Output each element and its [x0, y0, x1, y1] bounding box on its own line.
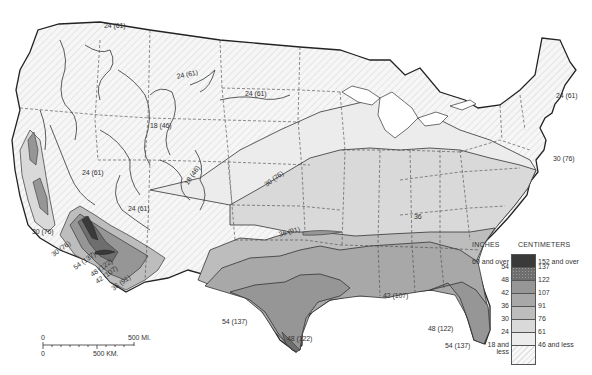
- legend-swatch: [511, 332, 536, 345]
- isoline-label: 54 (137): [445, 342, 470, 350]
- legend-divider: [511, 293, 536, 294]
- legend-inches-label: 48: [501, 276, 509, 283]
- isoline-label: 36: [414, 213, 422, 221]
- isoline-label: 48 (122): [428, 325, 453, 333]
- legend-cm-label: 107: [538, 289, 550, 296]
- legend-cm-label: 91: [538, 302, 546, 309]
- legend-swatch: [511, 280, 536, 293]
- legend-header-centimeters: CENTIMETERS: [518, 241, 570, 248]
- legend-swatch: [511, 306, 536, 319]
- legend-divider: [511, 332, 536, 333]
- scale-miles-zero: 0: [41, 334, 45, 342]
- legend-swatch: [511, 293, 536, 306]
- legend-header-inches: INCHES: [472, 241, 500, 248]
- legend-swatch: [511, 267, 536, 280]
- isoline-label: 24 (61): [245, 90, 266, 98]
- isoline-label: 24 (61): [104, 22, 125, 30]
- legend-cm-label: 61: [538, 328, 546, 335]
- legend-inches-label: 24: [501, 328, 509, 335]
- isoline-label: 42 (107): [383, 292, 408, 300]
- legend-cm-label: 137: [538, 263, 550, 270]
- isoline-label: 18 (46): [150, 122, 171, 130]
- isoline-label: 30 (76): [553, 155, 574, 163]
- scale-km-label: 500 KM.: [93, 350, 118, 358]
- legend-divider: [511, 319, 536, 320]
- legend-inches-label: 42: [501, 289, 509, 296]
- legend-inches-label: 54: [501, 263, 509, 270]
- legend-cm-label: 46 and less: [538, 341, 574, 348]
- legend-divider: [511, 280, 536, 281]
- isoline-label: 30 (76): [32, 228, 53, 236]
- legend-cm-label: 76: [538, 315, 546, 322]
- legend-inches-label: 36: [501, 302, 509, 309]
- isoline-label: 24 (61): [128, 205, 149, 213]
- scale-bar-graphic: [43, 342, 134, 349]
- legend-swatch: [511, 254, 536, 268]
- legend-cm-label: 122: [538, 276, 550, 283]
- scale-km-zero: 0: [41, 350, 45, 358]
- legend-inches-label: 18 andless: [488, 341, 509, 355]
- legend-divider: [511, 267, 536, 268]
- isoline-label: 24 (61): [82, 169, 103, 177]
- isoline-label: 24 (61): [556, 92, 577, 100]
- legend-inches-label: 30: [501, 315, 509, 322]
- scale-miles-label: 500 MI.: [128, 334, 151, 342]
- isoline-label: 54 (137): [222, 318, 247, 326]
- legend-swatch: [511, 319, 536, 332]
- legend-swatch: [511, 345, 536, 365]
- isoline-label: 48 (122): [287, 335, 312, 343]
- legend: INCHES CENTIMETERS 60 and over152 and ov…: [470, 240, 592, 375]
- legend-divider: [511, 345, 536, 346]
- legend-divider: [511, 306, 536, 307]
